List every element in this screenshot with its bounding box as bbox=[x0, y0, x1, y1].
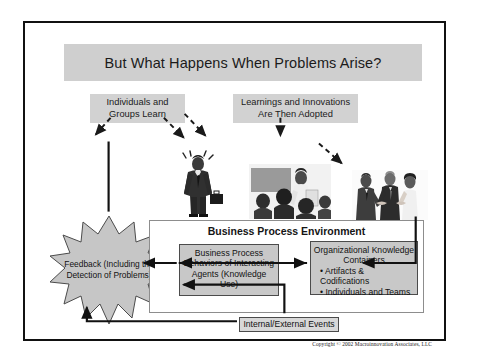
copyright-notice: Copyright © 2002 Macroinnovation Associa… bbox=[25, 341, 448, 347]
connector-layer bbox=[25, 23, 444, 339]
slide-canvas: But What Happens When Problems Arise? In… bbox=[23, 21, 446, 341]
